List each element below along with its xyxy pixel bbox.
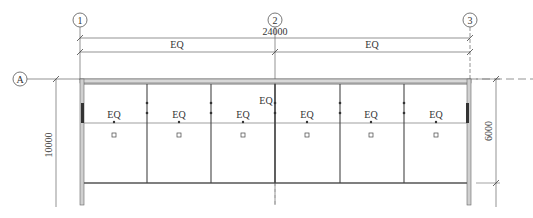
cad-drawing-canvas: 1 2 3 A 24000 EQ EQ 10: [0, 0, 533, 218]
grid-label-3: 3: [468, 15, 473, 26]
dimension-right-half: EQ: [365, 39, 379, 50]
partitions: [147, 84, 404, 183]
grid-column-3: 3: [463, 13, 477, 80]
fixture-icon: [434, 133, 438, 137]
bay-label: EQ: [429, 109, 443, 120]
dimension-left-height: 10000: [43, 76, 59, 207]
dimension-left-height-value: 10000: [43, 133, 54, 158]
dimension-right-height-value: 6000: [483, 121, 494, 141]
fixture-icon: [369, 133, 373, 137]
fixture-icon: [177, 133, 181, 137]
dimension-left-half: EQ: [170, 39, 184, 50]
fixture-icon: [112, 133, 116, 137]
bay-label: EQ: [107, 109, 121, 120]
dimension-overall-value: 24000: [263, 26, 288, 37]
bay-label: EQ: [364, 109, 378, 120]
bay-label: EQ: [300, 109, 314, 120]
grid-column-1: 1: [73, 13, 87, 80]
grid-label-a: A: [16, 74, 24, 85]
bay-label: EQ: [172, 109, 186, 120]
center-eq-label: EQ: [259, 95, 273, 106]
bay-label: EQ: [236, 109, 250, 120]
dimension-right-height: 6000: [476, 76, 500, 207]
fixture-icon: [305, 133, 309, 137]
fixture-icon: [241, 133, 245, 137]
grid-label-2: 2: [273, 15, 278, 26]
grid-label-1: 1: [78, 15, 83, 26]
